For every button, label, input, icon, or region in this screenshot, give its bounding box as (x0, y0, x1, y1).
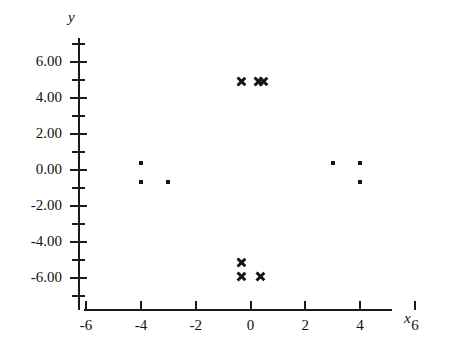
data-point-squares (139, 180, 143, 184)
x-axis-line (84, 309, 392, 311)
y-axis-minor-tick (72, 43, 85, 45)
y-axis-label: y (68, 10, 75, 25)
y-axis-minor-tick (72, 115, 85, 117)
data-point-crosses (255, 271, 266, 282)
data-point-squares (331, 161, 335, 165)
y-axis-minor-tick (72, 187, 85, 189)
y-axis-tick (70, 205, 87, 207)
y-axis-tick (70, 61, 87, 63)
y-axis-tick-label: 0.00 (0, 162, 62, 177)
y-axis-tick (70, 97, 87, 99)
scatter-plot-figure: y x 6.004.002.000.00-2.00-4.00-6.00-6-4-… (0, 0, 470, 350)
y-axis-tick-label: -6.00 (0, 270, 62, 285)
data-point-crosses (257, 76, 268, 87)
y-axis-minor-tick (72, 151, 85, 153)
x-axis-tick-label: 4 (340, 318, 380, 333)
x-axis-tick (85, 301, 87, 310)
y-axis-tick-label: -2.00 (0, 198, 62, 213)
x-axis-tick (250, 301, 252, 310)
y-axis-tick (70, 241, 87, 243)
y-axis-tick-label: -4.00 (0, 234, 62, 249)
data-point-squares (166, 180, 170, 184)
y-axis-tick-label: 4.00 (0, 90, 62, 105)
y-axis-tick (70, 277, 87, 279)
data-point-squares (139, 161, 143, 165)
data-point-squares (358, 161, 362, 165)
x-axis-tick-label: -4 (121, 318, 161, 333)
x-axis-tick (195, 301, 197, 310)
x-axis-tick (304, 301, 306, 310)
y-axis-minor-tick (72, 223, 85, 225)
x-axis-tick (359, 301, 361, 310)
data-point-crosses (235, 257, 246, 268)
x-axis-tick (140, 301, 142, 310)
y-axis-tick-label: 2.00 (0, 126, 62, 141)
x-axis-tick-label: -2 (176, 318, 216, 333)
y-axis-tick-label: 6.00 (0, 54, 62, 69)
x-axis-tick-label: 6 (395, 318, 435, 333)
y-axis-tick (70, 169, 87, 171)
x-axis-tick-label: 2 (285, 318, 325, 333)
data-point-crosses (235, 271, 246, 282)
x-axis-tick-label: 0 (231, 318, 271, 333)
y-axis-minor-tick (72, 79, 85, 81)
x-axis-tick (414, 301, 416, 310)
data-point-crosses (235, 76, 246, 87)
y-axis-tick (70, 133, 87, 135)
y-axis-minor-tick (72, 295, 85, 297)
y-axis-minor-tick (72, 259, 85, 261)
data-point-squares (358, 180, 362, 184)
x-axis-tick-label: -6 (66, 318, 106, 333)
